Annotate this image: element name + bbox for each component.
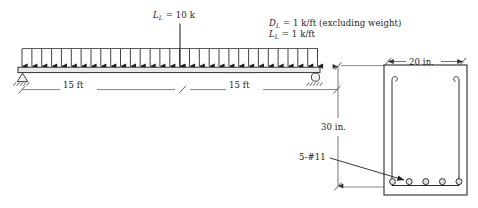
- point-load-value: 10 k: [176, 10, 195, 20]
- dead-load-label: DL = 1 k/ft (excluding weight): [269, 18, 401, 29]
- beam-member: [18, 67, 320, 72]
- dead-load-note: (excluding weight): [319, 18, 401, 28]
- rebar-bar: [423, 179, 429, 185]
- live-load-equals: =: [282, 29, 289, 39]
- roller-support-right: [307, 73, 323, 86]
- section-outline: [384, 65, 467, 195]
- dead-load-subscript: L: [276, 22, 280, 29]
- point-load-symbol: L: [153, 10, 159, 20]
- dead-load-equals: =: [283, 18, 290, 28]
- figure-vector-layer: [0, 0, 478, 208]
- rebar-bar: [390, 179, 396, 185]
- rebar-bar: [456, 179, 462, 185]
- span-label-right: 15 ft: [229, 80, 250, 91]
- beam-cross-section: [330, 58, 467, 195]
- point-load-subscript: L: [159, 14, 163, 21]
- rebar-bar: [406, 179, 412, 185]
- point-load-equals: =: [166, 10, 173, 20]
- span-label-left: 15 ft: [63, 80, 84, 91]
- section-depth-label: 30 in.: [321, 122, 346, 133]
- point-load-label: LL = 10 k: [153, 10, 195, 21]
- dead-load-value: 1 k/ft: [293, 18, 316, 28]
- live-load-value: 1 k/ft: [292, 29, 315, 39]
- live-load-label: LL = 1 k/ft: [269, 29, 315, 40]
- section-width-label: 20 in.: [409, 57, 434, 68]
- distributed-load-arrows: [22, 49, 318, 66]
- figure-canvas: LL = 10 k DL = 1 k/ft (excluding weight)…: [0, 0, 478, 208]
- pin-support-left: [13, 73, 29, 86]
- live-load-subscript: L: [275, 33, 279, 40]
- rebar-callout-label: 5-#11: [299, 152, 326, 163]
- dead-load-symbol: D: [269, 18, 276, 28]
- live-load-symbol: L: [269, 29, 275, 39]
- rebar-bar: [439, 179, 445, 185]
